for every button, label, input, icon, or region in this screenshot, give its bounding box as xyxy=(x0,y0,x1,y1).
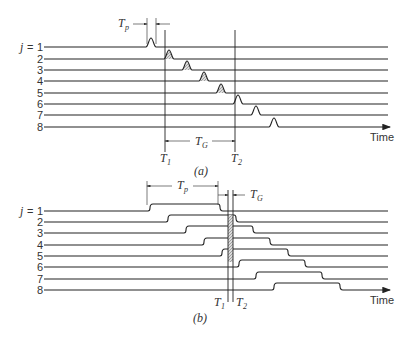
svg-text:=: = xyxy=(27,205,33,217)
signal-line-6 xyxy=(44,260,388,267)
svg-text:p: p xyxy=(124,23,129,32)
svg-text:G: G xyxy=(257,194,263,203)
row-label-7: 7 xyxy=(37,109,43,121)
panel-b xyxy=(44,204,390,290)
row-label-8: 8 xyxy=(37,284,43,296)
signal-line-1 xyxy=(44,38,388,47)
svg-text:2: 2 xyxy=(243,302,247,311)
signal-line-7 xyxy=(44,272,388,279)
signal-line-2 xyxy=(44,50,388,59)
signal-line-4 xyxy=(44,238,388,245)
timing-diagram: j = 1 2 3 4 5 6 7 8 T p T G T 1 T 2 Time… xyxy=(0,0,404,337)
signal-line-5 xyxy=(44,84,388,93)
row-label-1: 1 xyxy=(37,41,43,53)
panel-a-caption: (a) xyxy=(194,164,208,178)
signal-line-8 xyxy=(44,118,390,127)
time-axis-label: Time xyxy=(370,131,394,143)
panel-b-caption: (b) xyxy=(193,311,207,325)
svg-text:=: = xyxy=(27,41,33,53)
signal-line-5 xyxy=(44,249,388,256)
row-label-8: 8 xyxy=(37,121,43,133)
signal-line-1 xyxy=(44,204,388,211)
row-label-3: 3 xyxy=(37,227,43,239)
panel-a xyxy=(44,38,390,127)
tp-dimension: T p xyxy=(147,178,218,205)
tg-dimension: T G xyxy=(165,134,235,150)
signal-line-7 xyxy=(44,106,388,115)
panel-a-row-labels: j = 1 2 3 4 5 6 7 8 xyxy=(18,40,43,133)
signal-line-3 xyxy=(44,226,388,233)
time-axis-label: Time xyxy=(370,294,394,306)
svg-text:G: G xyxy=(202,141,208,150)
row-label-4: 4 xyxy=(37,75,43,87)
svg-text:2: 2 xyxy=(238,158,242,167)
guard-time-hatch xyxy=(228,215,233,262)
svg-text:p: p xyxy=(183,185,188,194)
signal-line-6 xyxy=(44,95,388,104)
svg-text:j: j xyxy=(18,204,24,218)
signal-line-4 xyxy=(44,72,388,81)
svg-text:1: 1 xyxy=(167,158,171,167)
panel-b-row-labels: j = 1 2 3 4 5 6 7 8 xyxy=(18,204,43,296)
tp-dimension: T p xyxy=(118,16,170,44)
signal-line-3 xyxy=(44,61,388,70)
tg-dimension: T G xyxy=(218,187,263,203)
row-label-6: 6 xyxy=(37,261,43,273)
signal-line-8 xyxy=(44,283,390,290)
j-symbol: j xyxy=(18,40,24,54)
svg-text:1: 1 xyxy=(221,302,225,311)
signal-line-2 xyxy=(44,215,388,222)
